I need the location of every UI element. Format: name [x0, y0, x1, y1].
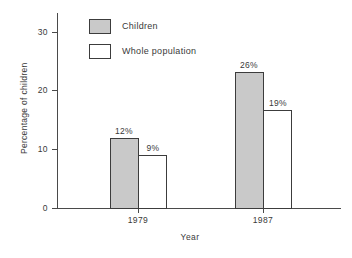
y-tick-10	[52, 149, 58, 150]
bar-label-1979-whole-population: 9%	[131, 144, 175, 153]
y-tick-30	[52, 32, 58, 33]
legend-label-whole-population: Whole population	[122, 47, 196, 56]
y-tick-0	[52, 208, 58, 209]
bar-label-1987-children: 26%	[227, 61, 271, 70]
bar-label-1979-children: 12%	[102, 127, 146, 136]
y-tick-20	[52, 90, 58, 91]
x-axis-line	[57, 208, 341, 209]
bar-1987-whole-population[interactable]	[263, 110, 292, 209]
bar-1987-children[interactable]	[235, 72, 264, 209]
y-axis-title: Percentage of children	[20, 38, 29, 178]
x-axis-title: Year	[160, 233, 220, 242]
bar-1979-whole-population[interactable]	[138, 155, 167, 209]
x-tick-label-1987: 1987	[233, 216, 293, 225]
x-tick-label-1979: 1979	[108, 216, 168, 225]
y-tick-label-0: 0	[8, 204, 48, 213]
bar-label-1987-whole-population: 19%	[256, 99, 300, 108]
legend-label-children: Children	[122, 22, 158, 31]
legend-swatch-whole-population	[89, 44, 111, 59]
bar-chart: 30 20 10 0 Percentage of children 1979 1…	[0, 0, 352, 258]
legend-swatch-children	[89, 19, 111, 34]
y-axis-line	[57, 13, 58, 209]
y-tick-label-30: 30	[8, 28, 48, 37]
